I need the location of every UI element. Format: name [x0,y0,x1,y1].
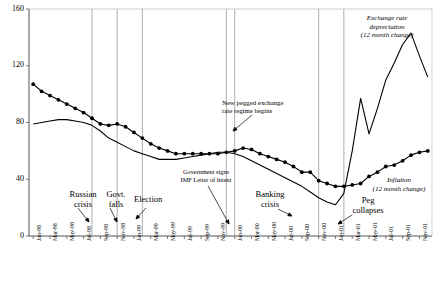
data-point-marker [208,152,212,156]
x-tick-label: Jul-00 [288,226,294,241]
x-tick-label: Nov-98 [120,223,126,241]
x-tick-label: Jul-98 [86,226,92,241]
data-point-marker [325,182,329,186]
annotation-inflation-series: Inflation (12 month change) [361,176,437,193]
annotation-govt-falls-line1: Govt. [96,189,136,199]
annotation-exchange-line3: (12 month change) [345,31,429,40]
annotation-imf-letter: Government signs IMF Letter of Intent [156,168,256,183]
data-point-marker [308,170,312,174]
data-point-marker [317,179,321,183]
data-point-marker [140,136,144,140]
x-tick-label: May-98 [69,222,75,241]
x-tick-label: Sep-01 [405,224,411,241]
data-point-marker [266,155,270,159]
data-point-marker [350,183,354,187]
data-point-marker [292,165,296,169]
annotation-peg-collapses: Peg collapses [343,195,393,215]
annotation-exchange-rate-series: Exchange rate depreciation (12 month cha… [345,14,429,40]
data-point-marker [283,160,287,164]
data-point-marker [376,170,380,174]
data-point-marker [418,150,422,154]
annotation-election: Election [134,194,162,204]
annotation-banking-crisis-line1: Banking [240,189,300,199]
annotation-govt-falls-line2: falls [96,199,136,209]
x-tick-label: Jan-01 [338,225,344,241]
data-point-marker [124,125,128,129]
y-tick-label-80: 80 [2,117,24,126]
arrow-head [114,218,117,222]
annotation-exchange-line1: Exchange rate [345,14,429,23]
x-tick-label: Sep-98 [103,224,109,241]
arrow-imf-letter [208,186,229,224]
annotation-new-peg-line1: New pegged exchange [222,99,312,107]
y-tick-label-160: 160 [2,4,24,13]
data-point-marker [191,152,195,156]
x-tick-label: Mar-99 [153,223,159,241]
data-point-marker [107,123,111,127]
y-tick-label-40: 40 [2,174,24,183]
data-point-marker [250,148,254,152]
y-tick-label-0: 0 [2,231,24,240]
x-tick-label: Mar-01 [355,223,361,241]
x-tick-label: Nov-00 [321,223,327,241]
data-point-marker [224,150,228,154]
data-point-marker [82,111,86,115]
x-tick-label: Sep-99 [204,224,210,241]
x-tick-label: May-99 [170,222,176,241]
data-point-marker [166,149,170,153]
annotation-inflation-line2: (12 month change) [361,185,437,194]
data-point-marker [342,184,346,188]
annotation-peg-collapses-line1: Peg [343,195,393,205]
data-point-marker [90,116,94,120]
y-tick-label-120: 120 [2,60,24,69]
x-tick-label: Mar-00 [254,223,260,241]
data-point-marker [216,152,220,156]
x-tick-label: Jul-99 [187,226,193,241]
x-tick-label: Nov-01 [422,223,428,241]
data-point-marker [275,157,279,161]
x-tick-label: May-01 [372,222,378,241]
data-point-marker [233,149,237,153]
data-point-marker [384,165,388,169]
chart-container: 160 120 80 40 0 Jan-98Mar-98May-98Jul-98… [0,0,439,281]
data-point-marker [334,184,338,188]
data-point-marker [258,152,262,156]
x-tick-label: Sep-00 [304,224,310,241]
data-point-marker [409,153,413,157]
data-point-marker [73,106,77,110]
data-point-marker [56,98,60,102]
annotation-new-peg: New pegged exchange rate regime begins [222,99,312,115]
arrow-head [338,221,342,225]
data-point-marker [199,152,203,156]
data-point-marker [115,122,119,126]
data-point-marker [300,170,304,174]
data-point-marker [65,102,69,106]
x-tick-label: Mar-98 [52,223,58,241]
data-point-marker [48,94,52,98]
x-tick-label: May-00 [271,222,277,241]
annotation-imf-line2: IMF Letter of Intent [156,176,256,184]
data-point-marker [174,152,178,156]
annotation-imf-line1: Government signs [156,168,256,176]
x-tick-label: Jan-99 [136,225,142,241]
annotation-banking-crisis: Banking crisis [240,189,300,209]
annotation-new-peg-line2: rate regime begins [222,107,312,115]
data-point-marker [392,163,396,167]
data-point-marker [31,82,35,86]
data-point-marker [40,89,44,93]
x-tick-label: Jan-98 [36,225,42,241]
x-tick-label: Nov-99 [220,223,226,241]
data-point-marker [132,131,136,135]
data-point-marker [241,146,245,150]
data-point-marker [401,159,405,163]
annotation-peg-collapses-line2: collapses [343,205,393,215]
data-point-marker [149,142,153,146]
x-tick-label: Jul-01 [388,226,394,241]
data-point-marker [182,152,186,156]
annotation-inflation-line1: Inflation [361,176,437,185]
data-point-marker [157,146,161,150]
x-tick-label: Jan-00 [237,225,243,241]
data-point-marker [426,149,430,153]
data-point-marker [98,122,102,126]
arrow-head [288,213,292,216]
